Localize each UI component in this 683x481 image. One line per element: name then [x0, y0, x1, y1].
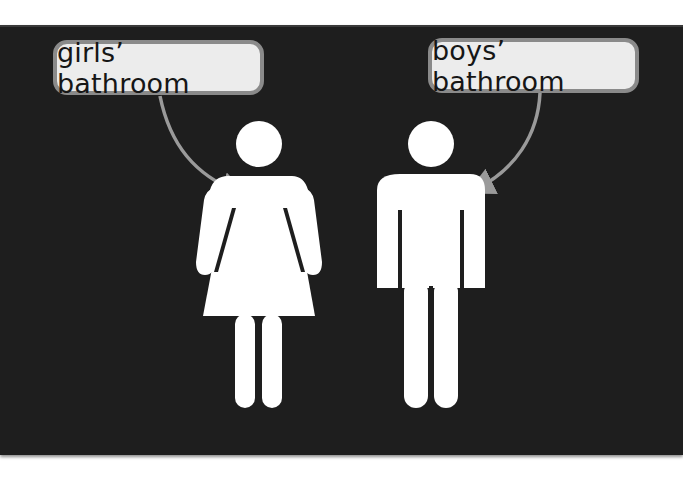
boys-bathroom-label-text: boys’ bathroom — [432, 35, 635, 97]
arrow-boys-label-to-figure — [476, 93, 540, 189]
female-figure-icon — [196, 121, 322, 408]
girls-bathroom-label-text: girls’ bathroom — [57, 37, 260, 99]
boys-bathroom-label: boys’ bathroom — [428, 38, 639, 93]
girls-bathroom-label: girls’ bathroom — [53, 40, 264, 95]
